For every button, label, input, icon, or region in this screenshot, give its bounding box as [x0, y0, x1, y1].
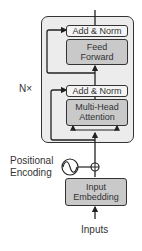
- input-embedding-line2: Embedding: [66, 192, 126, 202]
- upper-add-norm-label: Add & Norm: [72, 26, 121, 36]
- multi-head-attention-block: Multi-Head Attention: [66, 99, 128, 126]
- positional-encoding-line1: Positional: [10, 155, 53, 167]
- lower-add-norm: Add & Norm: [66, 85, 128, 97]
- repeat-label: N×: [19, 83, 32, 94]
- lower-add-norm-label: Add & Norm: [72, 86, 121, 96]
- feed-forward-line2: Forward: [67, 52, 127, 62]
- input-embedding-line1: Input: [66, 182, 126, 192]
- upper-add-norm: Add & Norm: [66, 25, 128, 37]
- feed-forward-line1: Feed: [67, 42, 127, 52]
- attention-line2: Attention: [67, 112, 127, 122]
- positional-encoding-label: Positional Encoding: [10, 155, 53, 179]
- inputs-label: Inputs: [81, 224, 108, 235]
- positional-encoding-line2: Encoding: [10, 167, 53, 179]
- feed-forward-block: Feed Forward: [66, 39, 128, 65]
- attention-line1: Multi-Head: [67, 102, 127, 112]
- input-embedding-block: Input Embedding: [65, 178, 127, 206]
